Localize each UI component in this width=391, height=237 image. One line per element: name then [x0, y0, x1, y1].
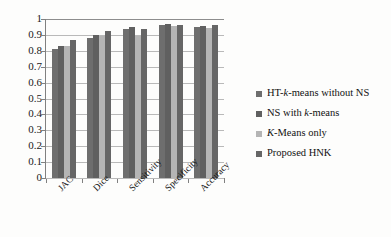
y-axis-tick-label: 1 [12, 13, 42, 24]
y-axis-tick-label: 0.3 [12, 124, 42, 135]
y-axis-tick-label: 0.5 [12, 93, 42, 104]
y-axis-tick-label: 0.6 [12, 77, 42, 88]
legend-item[interactable]: NS with k-means [256, 105, 388, 122]
bar [141, 29, 147, 178]
y-axis-tick-label: 0.8 [12, 45, 42, 56]
x-axis-tick-mark [224, 179, 225, 183]
legend-label: HT-k-means without NS [267, 88, 369, 99]
legend-label: K-Means only [267, 128, 327, 139]
bar-group-jac [46, 19, 82, 178]
x-axis-tick-mark [188, 179, 189, 183]
x-axis-tick-mark [153, 179, 154, 183]
y-axis-tick-label: 0.1 [12, 156, 42, 167]
legend-item[interactable]: HT-k-means without NS [256, 85, 388, 102]
y-axis-tick-label: 0.9 [12, 29, 42, 40]
x-axis-tick-mark [117, 179, 118, 183]
bar-group-accuracy [188, 19, 224, 178]
legend-label: NS with k-means [267, 108, 339, 119]
legend-swatch-icon [256, 111, 262, 117]
legend-label: Proposed HNK [267, 148, 331, 159]
legend-item[interactable]: Proposed HNK [256, 145, 388, 162]
y-axis-tick-label: 0 [12, 172, 42, 183]
x-axis-tick-mark [82, 179, 83, 183]
bar-chart: 10.90.80.70.60.50.40.30.20.10 JACDiceSen… [0, 0, 391, 237]
bar-group-dice [82, 19, 118, 178]
legend-swatch-icon [256, 131, 262, 137]
legend: HT-k-means without NSNS with k-meansK-Me… [256, 85, 388, 165]
y-axis-tick-label: 0.7 [12, 61, 42, 72]
y-axis-tick-label: 0.4 [12, 108, 42, 119]
legend-item[interactable]: K-Means only [256, 125, 388, 142]
legend-swatch-icon [256, 91, 262, 97]
y-axis-tick-label: 0.2 [12, 140, 42, 151]
bar [105, 31, 111, 178]
bar [177, 25, 183, 178]
bar [70, 40, 76, 178]
bar-group-specificity [153, 19, 189, 178]
bar [212, 25, 218, 178]
legend-swatch-icon [256, 151, 262, 157]
bar-group-sensitivity [117, 19, 153, 178]
plot-area [46, 19, 224, 178]
x-axis-tick-mark [46, 179, 47, 183]
